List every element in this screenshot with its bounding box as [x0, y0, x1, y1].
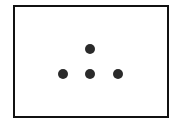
dot-bottom-center: [85, 69, 95, 79]
dot-bottom-right: [113, 69, 123, 79]
dot-top: [85, 44, 95, 54]
diagram-frame: [13, 5, 169, 118]
dot-bottom-left: [58, 69, 68, 79]
